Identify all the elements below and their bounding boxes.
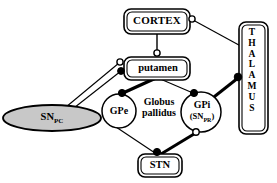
node-snpc[interactable] (3, 105, 101, 131)
node-putamen[interactable] (124, 57, 190, 80)
node-cortex[interactable] (124, 9, 190, 34)
node-gpi[interactable] (181, 92, 221, 132)
terminal-filled-circle-gpi-thalamus (234, 73, 242, 81)
terminal-filled-circle-putamen-gpi (190, 89, 197, 96)
diagram-canvas (0, 0, 277, 183)
terminal-open-circle-cortex-putamen (154, 50, 160, 56)
terminal-open-circle-stn-gpi (193, 129, 199, 135)
node-thalamus[interactable] (239, 22, 268, 134)
connection-stn-gpi (161, 134, 194, 154)
terminal-open-circle-thalamus-cortex (189, 16, 195, 22)
node-gpe[interactable] (102, 94, 136, 128)
node-stn[interactable] (138, 154, 182, 177)
terminal-filled-circle-snpc-putamen (118, 68, 125, 75)
terminal-open-circle-snpc-putamen (117, 59, 123, 65)
basal-ganglia-diagram: CORTEX putamen STN GPe GPi (SNPR) SNPC G… (0, 0, 277, 183)
terminal-filled-circle-gpe-stn (153, 148, 160, 155)
terminal-filled-circle-putamen-gpe (118, 89, 125, 96)
connection-gpe-stn (116, 127, 155, 153)
